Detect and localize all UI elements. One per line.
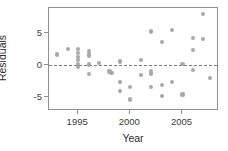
x-tick-label: 2000 [119,116,140,127]
data-point [109,71,113,75]
data-point [139,73,143,77]
x-tick-mark [77,110,78,114]
y-tick-label: 5 [37,27,42,38]
data-point [149,71,153,75]
data-point [191,48,195,52]
data-point [180,62,184,66]
data-point [149,29,153,33]
x-axis-title: Year [122,132,143,144]
data-point [180,92,184,96]
data-point [118,59,122,63]
plot-area [49,8,217,109]
data-point [76,65,80,69]
plot-frame [48,7,218,110]
data-point [87,72,91,76]
data-point [160,94,164,98]
data-point [191,36,195,40]
data-point [55,52,59,56]
data-point [201,37,205,41]
x-tick-label: 1995 [67,116,88,127]
data-point [87,54,91,58]
data-point [128,97,132,101]
data-point [160,40,164,44]
y-tick-label: 0 [37,59,42,70]
data-point [201,12,205,16]
data-point [149,85,153,89]
data-point [139,58,143,62]
data-point [118,89,122,93]
data-point [87,62,91,66]
data-point [118,80,122,84]
data-point [208,76,212,80]
y-axis-title: Residuals [0,35,8,81]
data-point [170,28,174,32]
data-point [170,80,174,84]
x-tick-label: 2005 [171,116,192,127]
data-point [128,85,132,89]
zero-reference-line [49,65,217,66]
data-point [66,47,70,51]
data-point [160,83,164,87]
residuals-scatter-figure: Residuals Year 50-5 199520002005 [0,0,228,151]
data-point [191,68,195,72]
y-tick-label: -5 [34,91,42,102]
x-tick-mark [181,110,182,114]
x-tick-mark [129,110,130,114]
